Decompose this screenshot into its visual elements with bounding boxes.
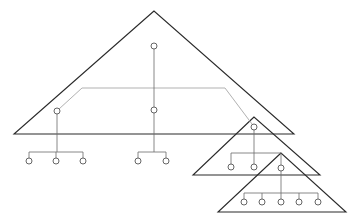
edge-center-children (138, 113, 166, 158)
tree-node-s3 (278, 199, 284, 205)
tree-node-left (54, 108, 60, 114)
tree-node-l1 (26, 158, 32, 164)
tree-node-l2 (53, 158, 59, 164)
tree-node-root (151, 43, 157, 49)
tree-node-s2 (259, 199, 265, 205)
tree-node-m1 (228, 164, 234, 170)
triangles (14, 11, 346, 212)
tree-node-c1 (135, 158, 141, 164)
tree-node-c2 (163, 158, 169, 164)
tree-node-s5 (315, 199, 321, 205)
tree-node-s4 (296, 199, 302, 205)
tree-node-m (251, 124, 257, 130)
highlight-path (59, 88, 252, 124)
edge-left-children (29, 114, 83, 158)
tree-node-m2 (251, 164, 257, 170)
tree-node-s (278, 165, 284, 171)
tree-node-center (151, 107, 157, 113)
tree-diagram (0, 0, 357, 220)
tree-node-l3 (80, 158, 86, 164)
tree-node-s1 (241, 199, 247, 205)
nodes (26, 43, 321, 205)
edges (29, 49, 318, 199)
